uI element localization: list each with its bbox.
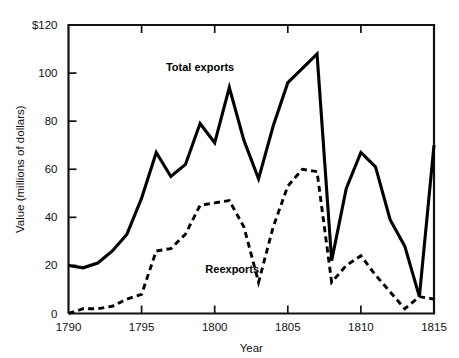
y-tick-labels: 020406080100$120 [32, 19, 58, 320]
x-tick-labels: 179017951800180518101815 [56, 321, 447, 333]
y-tick-label: 80 [45, 115, 58, 127]
x-tick-label: 1805 [275, 321, 301, 333]
x-tick-label: 1815 [421, 321, 447, 333]
x-tick-label: 1790 [56, 321, 82, 333]
line-chart: 020406080100$120 17901795180018051810181… [0, 0, 459, 358]
y-axis-title: Value (millions of dollars) [14, 105, 26, 233]
series-label-total-exports: Total exports [166, 61, 234, 73]
x-tick-label: 1800 [202, 321, 228, 333]
y-tick-label: 60 [45, 163, 58, 175]
y-tick-label: 20 [45, 259, 58, 271]
y-tick-label: 40 [45, 211, 58, 223]
y-tick-label: 0 [51, 308, 57, 320]
x-axis-title: Year [240, 342, 263, 354]
y-tick-label: $120 [32, 19, 58, 31]
chart-container: 020406080100$120 17901795180018051810181… [0, 0, 459, 358]
x-tick-label: 1810 [348, 321, 374, 333]
series-line-reexports [69, 169, 435, 313]
series-line-total-exports [69, 54, 435, 297]
series-label-reexports: Reexports [205, 263, 259, 275]
y-tick-label: 100 [38, 67, 57, 79]
x-tick-label: 1795 [129, 321, 155, 333]
